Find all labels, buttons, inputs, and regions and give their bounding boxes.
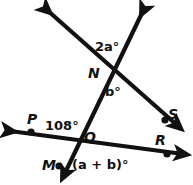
point-dot-P [27,128,34,135]
point-label-P: P [27,112,37,126]
point-label-M: M [42,158,56,172]
point-dot-R [163,150,170,157]
point-label-N: N [88,66,100,80]
point-label-Q: Q [84,130,96,144]
angle-label-a-plus-b: (a + b)° [72,158,128,171]
geometry-figure: 2a° b° 108° (a + b)° N Q P S R M [0,0,193,185]
line-upleft-to-S [47,10,178,126]
point-label-R: R [155,133,166,147]
angle-label-2a: 2a° [95,40,119,53]
point-label-S: S [168,107,178,121]
angle-label-108: 108° [45,119,79,132]
angle-label-b: b° [105,85,121,98]
point-dot-M [55,162,62,169]
